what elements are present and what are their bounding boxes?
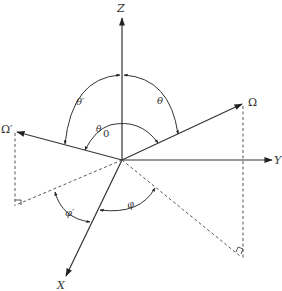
z-axis-label: Z: [116, 2, 125, 15]
omega-vector: [122, 104, 242, 160]
theta-arc: [124, 75, 178, 134]
y-axis-label: Y: [274, 154, 282, 167]
omega-horizontal-projection: [122, 160, 240, 256]
omega-prime-right-angle-marker: [15, 200, 21, 205]
theta0-base: θ: [96, 124, 102, 134]
omega-prime-horizontal-projection: [16, 160, 122, 205]
omega-label: Ω: [248, 96, 257, 109]
theta-label: θ: [157, 95, 163, 106]
omega-right-angle-marker: [236, 247, 243, 254]
x-axis: [66, 160, 122, 276]
x-axis-label: X: [56, 279, 66, 291]
scattering-geometry-diagram: Z Y X Ω Ω′ θ θ′ θ 0 φ φ′: [0, 0, 282, 291]
theta-prime-label: θ′: [76, 96, 85, 107]
theta0-subscript: 0: [103, 128, 109, 139]
omega-prime-label: Ω′: [1, 123, 13, 136]
phi-prime-label: φ′: [65, 207, 75, 218]
theta-prime-arc: [65, 75, 120, 144]
